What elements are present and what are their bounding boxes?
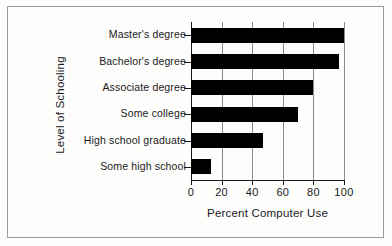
category-label: Some high school [100,160,186,172]
x-axis-line [191,180,345,181]
bar-3 [191,80,313,95]
bar-2 [191,54,339,69]
x-axis-tick-0 [191,180,192,185]
bar-row [191,127,263,153]
bar-row [191,154,211,180]
x-axis-tick-40 [252,180,253,185]
y-axis-tick-3 [184,88,191,89]
y-axis-tick-6 [184,167,191,168]
category-label: High school graduate [84,134,186,146]
bar-4 [191,107,298,122]
bar-1 [191,28,344,43]
plot-area [191,22,344,180]
x-axis-tick-80 [313,180,314,185]
y-axis-tick-2 [184,62,191,63]
category-label: Associate degree [102,81,186,93]
bar-6 [191,159,211,174]
x-axis-tick-100 [344,180,345,185]
y-axis-tick-4 [184,114,191,115]
bar-row [191,75,313,101]
x-axis-title: Percent Computer Use [191,207,344,219]
bar-row [191,101,298,127]
y-axis-tick-5 [184,141,191,142]
bar-5 [191,133,263,148]
bar-row [191,48,339,74]
x-axis-tick-60 [283,180,284,185]
y-axis-tick-1 [184,35,191,36]
category-label: Some college [121,107,186,119]
bar-row [191,22,344,48]
x-axis-tick-20 [222,180,223,185]
y-axis-tick-labels: Master's degreeBachelor's degreeAssociat… [40,22,186,180]
x-axis-tick-label-100: 100 [324,186,364,198]
category-label: Master's degree [109,28,186,40]
chart-figure: Level of Schooling Master's degreeBachel… [0,0,392,246]
gridline-100 [344,22,345,180]
category-label: Bachelor's degree [99,55,186,67]
